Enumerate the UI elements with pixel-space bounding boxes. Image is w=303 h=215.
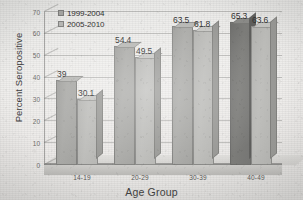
bar [56,80,77,165]
bar [135,57,156,165]
bar-value-label: 49.5 [136,46,152,56]
bar-front-face [135,57,156,165]
bar-front-face [172,26,193,165]
bar-value-label: 54.4 [115,35,131,45]
bar-value-label: 65.3 [231,11,247,21]
y-axis-tick-label: 70 [20,9,40,16]
x-axis-title: Age Group [0,186,303,198]
bar-group: 65.363.640-49 [230,12,282,165]
bar [114,46,135,165]
legend-label: 1999-2004 [67,9,104,18]
bar [251,26,272,165]
bar-front-face [230,22,251,165]
chart-legend: 1999-2004 2005-2010 [58,8,104,30]
bar-side-face [270,16,277,159]
x-axis-tick-label: 30-39 [172,174,224,181]
bar-front-face [193,30,214,165]
y-axis-tick-label: 0 [20,162,40,169]
bar [193,30,214,165]
bar-value-label: 63.6 [252,15,268,25]
bar-front-face [114,46,135,165]
bar-group: 63.561.830-39 [172,12,224,165]
bar [230,22,251,165]
bar-side-face [212,20,219,159]
bar [77,99,98,165]
legend-label: 2005-2010 [67,20,104,29]
bar-group: 3930.114-19 [56,12,108,165]
bar-front-face [77,99,98,165]
x-axis-tick-label: 20-29 [114,174,166,181]
x-axis-tick-label: 14-19 [56,174,108,181]
y-axis-tick-label: 20 [20,118,40,125]
plot-area: 0102030405060703930.114-1954.449.520-296… [44,12,296,175]
bar-side-face [96,89,103,159]
bar-group: 54.449.520-29 [114,12,166,165]
chart-figure: Percent Seropositive 0102030405060703930… [0,0,303,215]
legend-swatch-icon [58,21,64,27]
legend-item: 2005-2010 [58,19,104,29]
y-axis-tick-label: 60 [20,30,40,37]
bar-value-label: 63.5 [173,15,189,25]
bar-value-label: 39 [57,69,66,79]
bar-value-label: 61.8 [194,19,210,29]
bar-front-face [251,26,272,165]
legend-item: 1999-2004 [58,8,104,18]
bottom-margin [0,200,303,215]
bar-side-face [154,47,161,159]
y-axis-tick-label: 40 [20,74,40,81]
x-axis-tick-label: 40-49 [230,174,282,181]
y-axis-tick-label: 10 [20,140,40,147]
y-axis-tick-label: 30 [20,96,40,103]
bar-value-label: 30.1 [78,88,94,98]
bar [172,26,193,165]
bar-front-face [56,80,77,165]
legend-swatch-icon [58,10,64,16]
y-axis-tick-label: 50 [20,52,40,59]
